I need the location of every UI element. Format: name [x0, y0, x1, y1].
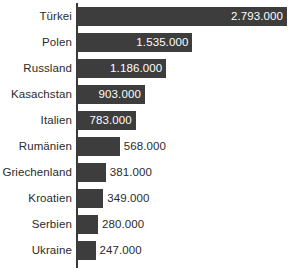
bar-container: 903.000 [77, 81, 145, 107]
value-label: 349.000 [107, 189, 149, 208]
category-label: Türkei [0, 3, 72, 29]
bar[interactable] [77, 215, 98, 234]
bar-row: Italien783.000 [0, 107, 296, 133]
value-label: 1.186.000 [110, 59, 162, 78]
bar-row: Rumänien568.000 [0, 133, 296, 159]
bar-container: 1.186.000 [77, 55, 166, 81]
bar-row: Polen1.535.000 [0, 29, 296, 55]
bar-row: Kroatien349.000 [0, 185, 296, 211]
bar-container: 349.000 [77, 185, 103, 211]
bar-row: Kasachstan903.000 [0, 81, 296, 107]
bar-container: 2.793.000 [77, 3, 287, 29]
value-label: 381.000 [110, 163, 152, 182]
bar[interactable] [77, 137, 120, 156]
bar[interactable] [77, 163, 106, 182]
value-label: 568.000 [124, 137, 166, 156]
bar-row: Russland1.186.000 [0, 55, 296, 81]
value-label: 1.535.000 [136, 33, 188, 52]
bar-container: 280.000 [77, 211, 98, 237]
bar-row: Griechenland381.000 [0, 159, 296, 185]
category-label: Russland [0, 55, 72, 81]
value-label: 903.000 [99, 85, 141, 104]
category-label: Kasachstan [0, 81, 72, 107]
category-label: Polen [0, 29, 72, 55]
value-label: 280.000 [102, 215, 144, 234]
bar-row: Serbien280.000 [0, 211, 296, 237]
bar-container: 247.000 [77, 237, 96, 263]
category-label: Rumänien [0, 133, 72, 159]
bar-container: 381.000 [77, 159, 106, 185]
value-label: 783.000 [90, 111, 132, 130]
category-label: Kroatien [0, 185, 72, 211]
bar[interactable] [77, 241, 96, 260]
category-label: Serbien [0, 211, 72, 237]
bar-container: 568.000 [77, 133, 120, 159]
bar-row: Türkei2.793.000 [0, 3, 296, 29]
category-label: Griechenland [0, 159, 72, 185]
value-label: 247.000 [100, 241, 142, 260]
bar-container: 1.535.000 [77, 29, 192, 55]
bar-row: Ukraine247.000 [0, 237, 296, 263]
bar-container: 783.000 [77, 107, 136, 133]
category-label: Italien [0, 107, 72, 133]
category-label: Ukraine [0, 237, 72, 263]
bar[interactable] [77, 189, 103, 208]
value-label: 2.793.000 [231, 7, 283, 26]
bar-chart: Türkei2.793.000Polen1.535.000Russland1.1… [0, 0, 296, 280]
